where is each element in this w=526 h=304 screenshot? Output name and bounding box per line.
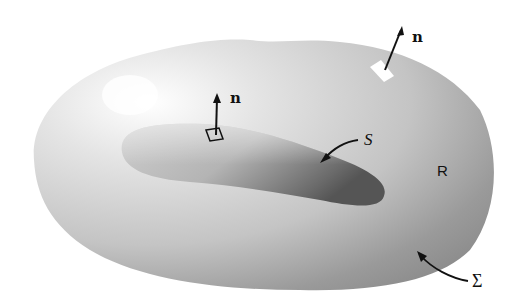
diagram-canvas (0, 0, 526, 304)
label-surface-sigma: Σ (472, 272, 482, 290)
label-region-r: R (437, 163, 448, 178)
label-surface-s: S (364, 131, 373, 148)
label-normal-outer: n (412, 30, 423, 45)
highlight (102, 75, 158, 115)
label-normal-inner: n (230, 91, 241, 106)
